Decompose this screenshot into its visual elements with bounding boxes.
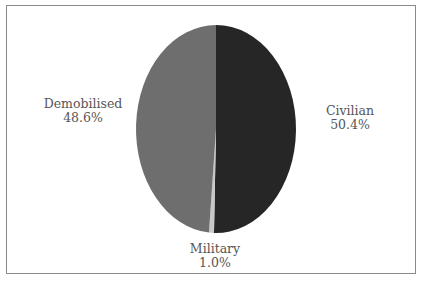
label-civilian-name: Civilian [310,104,390,118]
label-civilian-pct: 50.4% [310,118,390,132]
pie-slice-civilian [214,25,296,233]
pie-chart [0,0,423,282]
label-military-pct: 1.0% [180,256,250,270]
label-demobilised-pct: 48.6% [28,111,138,125]
label-military-name: Military [180,242,250,256]
label-military: Military 1.0% [180,242,250,270]
label-demobilised-name: Demobilised [28,97,138,111]
label-civilian: Civilian 50.4% [310,104,390,132]
pie-slice-demobilised [136,25,216,233]
label-demobilised: Demobilised 48.6% [28,97,138,125]
